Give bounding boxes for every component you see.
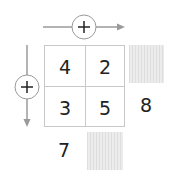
horizontal-add-arrow	[43, 15, 125, 39]
column-1-sum: 7	[49, 139, 79, 161]
vertical-add-arrow	[15, 45, 39, 127]
grid-cell-r1c1: 4	[45, 46, 85, 87]
grid-cell-r1c2: 2	[85, 46, 125, 87]
row-1-sum-answer-box[interactable]	[129, 45, 164, 83]
grid-cell-r2c1: 3	[45, 87, 85, 128]
column-2-sum-answer-box[interactable]	[87, 132, 123, 170]
row-2-sum: 8	[131, 94, 161, 116]
grid-cell-r2c2: 5	[85, 87, 125, 128]
number-grid: 4 2 3 5	[44, 45, 125, 127]
